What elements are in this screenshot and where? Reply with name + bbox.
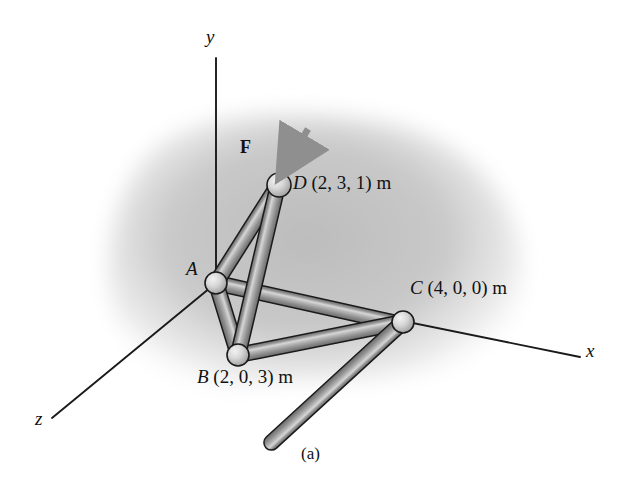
joint-C[interactable] [392,311,414,333]
background-shadow [109,114,522,390]
joint-D[interactable] [267,173,291,197]
truss-diagram-svg [0,0,623,494]
joint-label-C: C (4, 0, 0) m [410,277,507,299]
joint-label-D: D (2, 3, 1) m [293,172,391,194]
figure-canvas: y x z A B (2, 0, 3) m C (4, 0, 0) m D (2… [0,0,623,494]
z-axis-label: z [35,408,42,430]
force-label: F [240,137,251,158]
figure-caption: (a) [301,444,320,464]
x-axis-label: x [586,340,594,362]
joint-B[interactable] [227,344,249,366]
joint-A[interactable] [205,272,227,294]
y-axis-label: y [206,26,214,48]
joint-label-B: B (2, 0, 3) m [197,366,293,388]
joint-label-A: A [186,258,198,280]
